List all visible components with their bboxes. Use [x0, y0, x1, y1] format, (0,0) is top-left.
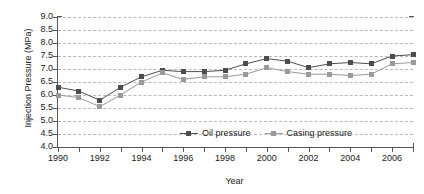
x-tick: [204, 147, 205, 152]
series-line-oil: [58, 55, 413, 100]
x-tick: [183, 147, 184, 152]
data-point-marker: [76, 95, 81, 100]
data-point-marker: [181, 77, 186, 82]
data-point-marker: [264, 56, 269, 61]
data-point-marker: [56, 93, 61, 98]
data-point-marker: [181, 69, 186, 74]
x-tick-label: 1992: [80, 153, 120, 163]
x-tick: [288, 147, 289, 152]
legend-label-oil-pressure: Oil pressure: [202, 128, 251, 138]
x-tick-label: 2004: [330, 153, 370, 163]
y-tick-label: 7.5: [27, 50, 53, 60]
y-tick-label: 5.5: [27, 102, 53, 112]
data-point-marker: [411, 60, 416, 65]
x-tick: [267, 147, 268, 152]
y-tick-label: 7.0: [27, 63, 53, 73]
x-tick: [329, 147, 330, 152]
chart-figure: Injection Pressure (MPa) 9.08.58.07.57.0…: [0, 0, 424, 194]
data-point-marker: [285, 59, 290, 64]
x-tick: [392, 147, 393, 152]
x-tick-label: 2000: [247, 153, 287, 163]
data-point-marker: [97, 98, 102, 103]
data-point-marker: [369, 61, 374, 66]
x-tick: [162, 147, 163, 152]
x-tick: [309, 147, 310, 152]
y-tick-label: 5.0: [27, 115, 53, 125]
x-tick-label: 2006: [372, 153, 412, 163]
data-point-marker: [348, 60, 353, 65]
x-tick: [79, 147, 80, 152]
data-point-marker: [390, 54, 395, 59]
x-tick: [350, 147, 351, 152]
data-point-marker: [411, 52, 416, 57]
y-tick-label: 8.0: [27, 37, 53, 47]
x-axis-title: Year: [57, 176, 412, 186]
data-point-marker: [76, 89, 81, 94]
chart-legend: Oil pressure Casing pressure: [180, 128, 352, 138]
x-tick: [225, 147, 226, 152]
data-point-marker: [306, 65, 311, 70]
y-tick-label: 6.5: [27, 76, 53, 86]
legend-swatch-oil-icon: [180, 130, 198, 137]
y-tick-label: 9.0: [27, 11, 53, 21]
data-point-marker: [285, 69, 290, 74]
x-tick: [413, 147, 414, 152]
x-tick-label: 2002: [289, 153, 329, 163]
data-point-marker: [118, 85, 123, 90]
legend-swatch-casing-icon: [265, 130, 283, 137]
data-point-marker: [327, 61, 332, 66]
y-tick-label: 4.0: [27, 141, 53, 151]
data-point-marker: [390, 61, 395, 66]
legend-item-casing-pressure: Casing pressure: [265, 128, 353, 138]
data-point-marker: [223, 68, 228, 73]
legend-item-oil-pressure: Oil pressure: [180, 128, 251, 138]
data-point-marker: [118, 93, 123, 98]
x-tick-label: 1994: [122, 153, 162, 163]
x-tick: [371, 147, 372, 152]
y-tick-label: 4.5: [27, 128, 53, 138]
legend-label-casing-pressure: Casing pressure: [287, 128, 353, 138]
data-point-marker: [327, 72, 332, 77]
x-tick-label: 1990: [38, 153, 78, 163]
x-tick: [121, 147, 122, 152]
data-point-marker: [160, 70, 165, 75]
series-line-casing: [58, 63, 413, 107]
data-point-marker: [243, 61, 248, 66]
y-tick-label: 6.0: [27, 89, 53, 99]
x-tick-label: 1996: [163, 153, 203, 163]
data-point-marker: [56, 85, 61, 90]
x-tick: [58, 147, 59, 152]
data-point-marker: [202, 74, 207, 79]
data-point-marker: [243, 72, 248, 77]
x-tick: [246, 147, 247, 152]
x-tick: [100, 147, 101, 152]
y-tick-label: 8.5: [27, 24, 53, 34]
data-point-marker: [306, 72, 311, 77]
x-tick-label: 1998: [205, 153, 245, 163]
data-point-marker: [348, 73, 353, 78]
x-tick: [142, 147, 143, 152]
data-point-marker: [139, 80, 144, 85]
data-point-marker: [264, 65, 269, 70]
data-point-marker: [97, 104, 102, 109]
data-point-marker: [369, 72, 374, 77]
data-point-marker: [223, 74, 228, 79]
